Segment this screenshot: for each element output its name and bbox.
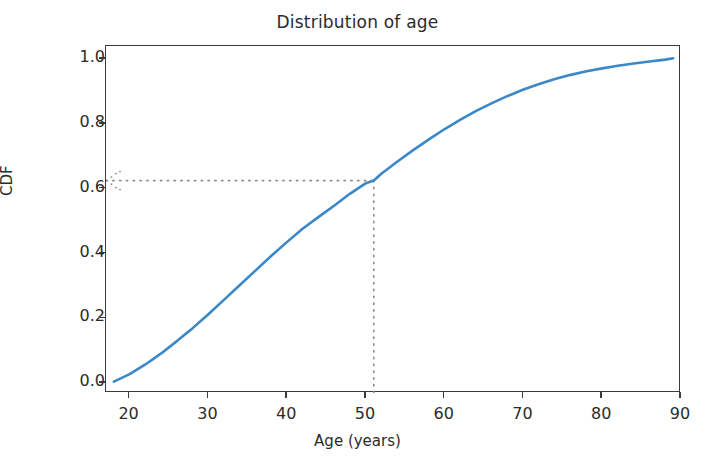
y-axis-label: CDF: [0, 165, 16, 196]
x-tick-label: 40: [261, 404, 311, 423]
x-tick-label: 60: [419, 404, 469, 423]
x-tick-label: 80: [576, 404, 626, 423]
x-tick-label: 50: [340, 404, 390, 423]
x-tick-label: 20: [104, 404, 154, 423]
chart-title: Distribution of age: [0, 12, 715, 32]
x-tick-label: 90: [655, 404, 705, 423]
x-tick-label: 30: [182, 404, 232, 423]
annotation-layer: [106, 171, 374, 393]
series-layer: [114, 58, 673, 381]
x-axis-label: Age (years): [0, 432, 715, 450]
x-tick-label: 70: [497, 404, 547, 423]
cdf-line: [114, 58, 673, 381]
plot-canvas: [106, 46, 681, 393]
x-axis-tick-group: 2030405060708090: [0, 392, 715, 426]
chart-figure: Distribution of age CDF Age (years) 0.00…: [0, 0, 715, 470]
plot-area: [105, 45, 680, 392]
